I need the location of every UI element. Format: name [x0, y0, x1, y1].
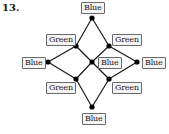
label-lower-left: Green [46, 82, 76, 94]
edge-upper-left-left [48, 46, 76, 62]
label-lower-right: Green [112, 82, 142, 94]
label-right: Blue [142, 57, 166, 69]
node-left [45, 59, 50, 64]
node-top [89, 15, 94, 20]
label-center: Blue [98, 57, 122, 69]
node-upper-right [106, 43, 111, 48]
edge-left-lower-left [48, 62, 76, 79]
node-center [89, 59, 94, 64]
edge-top-upper-left [76, 18, 92, 46]
edge-top-upper-right [92, 18, 109, 46]
edge-upper-left-center [76, 46, 92, 62]
node-right [134, 59, 139, 64]
edge-lower-right-bottom [92, 79, 109, 107]
node-bottom [89, 104, 94, 109]
label-upper-left: Green [46, 34, 76, 46]
node-lower-left [73, 76, 78, 81]
graph-nodes [45, 15, 139, 109]
label-top: Blue [81, 2, 105, 14]
label-left: Blue [22, 57, 46, 69]
edge-lower-left-bottom [76, 79, 92, 107]
node-lower-right [106, 76, 111, 81]
label-bottom: Blue [82, 113, 106, 125]
edge-center-lower-left [76, 62, 92, 79]
label-upper-right: Green [112, 34, 142, 46]
